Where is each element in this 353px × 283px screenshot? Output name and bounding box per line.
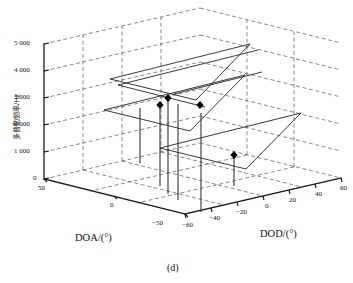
doa-axis-title: DOA/(°): [75, 232, 112, 243]
dod-axis-title: DOD/(°): [260, 228, 297, 239]
dod-tick-0: 0: [265, 202, 269, 210]
dod-tick-neg60: −60: [182, 221, 193, 229]
dod-tick-neg40: −40: [209, 214, 220, 222]
dod-axis-ticks: [185, 178, 342, 218]
plot-canvas: [0, 0, 353, 283]
dod-tick-60: 60: [340, 184, 347, 192]
data-point-marker: [156, 101, 163, 109]
doa-tick-0: 0: [110, 201, 114, 209]
data-point-marker: [196, 101, 203, 109]
data-markers: [156, 94, 237, 159]
z-axis-ticks: [44, 43, 49, 179]
z-tick-5000: 5 000: [14, 39, 30, 47]
dod-tick-neg20: −20: [236, 208, 247, 216]
doa-tick-neg50: −50: [152, 219, 163, 227]
back-right-wall-grid: [200, 8, 341, 178]
dod-tick-40: 40: [315, 190, 322, 198]
doa-tick-50: 50: [38, 184, 45, 192]
data-point-marker: [230, 151, 237, 159]
z-tick-1000: 1 000: [14, 147, 30, 155]
z-tick-0: 0: [33, 174, 37, 182]
figure-caption: (d): [167, 262, 179, 273]
dod-tick-20: 20: [289, 196, 296, 204]
z-tick-4000: 4 000: [14, 66, 30, 74]
z-axis-title: 多普勒频率/Hz: [11, 94, 21, 140]
figure-3d-scatter: 5 000 4 000 3 000 2 000 1 000 0 多普勒频率/Hz…: [0, 0, 353, 283]
